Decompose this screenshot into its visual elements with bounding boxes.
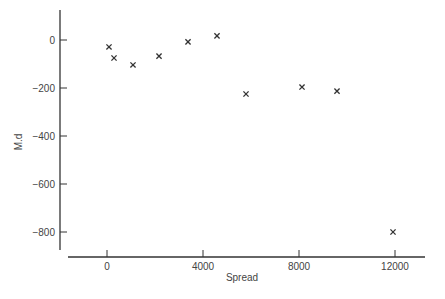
y-tick-label: −400 [32,131,55,142]
data-point-x-marker [130,62,135,67]
data-point-x-marker [214,33,219,38]
data-point-x-marker [111,55,116,60]
plot-area: 0−200−400−600−80004000800012000 Spread M… [0,0,445,299]
x-tick-label: 4000 [192,261,215,272]
data-point-x-marker [334,89,339,94]
x-tick-label: 12000 [381,261,409,272]
data-point-x-marker [243,91,248,96]
data-point-x-marker [390,229,395,234]
y-tick-label: −800 [32,227,55,238]
x-tick-label: 8000 [288,261,311,272]
y-tick-label: 0 [49,35,55,46]
data-point-x-marker [106,44,111,49]
y-axis-label: M.d [13,134,24,151]
x-axis-label: Spread [226,272,258,283]
data-point-x-marker [299,84,304,89]
y-tick-label: −600 [32,179,55,190]
scatter-chart: 0−200−400−600−80004000800012000 Spread M… [0,0,445,299]
axes: 0−200−400−600−80004000800012000 [32,10,425,272]
x-tick-label: 0 [104,261,110,272]
data-point-x-marker [185,39,190,44]
data-points [106,33,395,234]
data-point-x-marker [156,53,161,58]
y-tick-label: −200 [32,83,55,94]
